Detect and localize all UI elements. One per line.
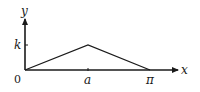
triangle-function-graph: y x k 0 a π [0, 0, 200, 92]
y-axis-label: y [20, 4, 28, 18]
x-axis-label: x [181, 63, 188, 77]
x-tick-label-pi: π [145, 73, 155, 87]
origin-label: 0 [14, 73, 21, 86]
y-tick-label-k: k [14, 38, 21, 52]
x-tick-label-a: a [84, 73, 91, 87]
triangle-curve [25, 45, 150, 70]
